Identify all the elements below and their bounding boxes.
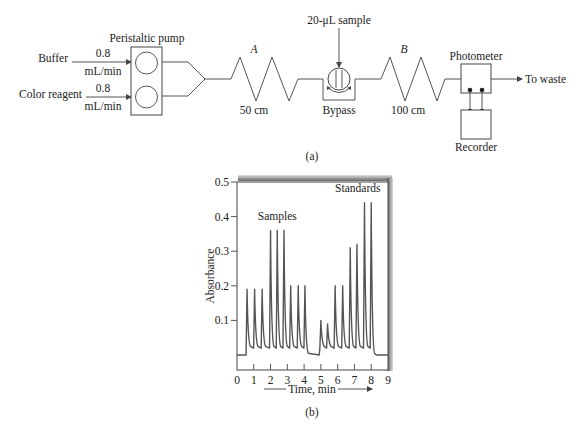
y-tick-label: 0.5 xyxy=(215,176,230,188)
mixing-tee xyxy=(162,62,205,96)
sample-label: 20-μL sample xyxy=(307,14,371,27)
x-tick-label: 7 xyxy=(352,374,358,386)
caption-a: (a) xyxy=(306,150,319,163)
samples-annotation: Samples xyxy=(258,210,297,223)
caption-b: (b) xyxy=(305,406,319,419)
buffer-flow-value: 0.8 xyxy=(96,47,111,59)
absorbance-chart: 0.10.20.30.40.5 0123456789 Samples Stand… xyxy=(204,175,393,419)
coil-b-length: 100 cm xyxy=(391,104,425,116)
buffer-label: Buffer xyxy=(38,52,68,64)
reagent-flow-unit: mL/min xyxy=(84,100,121,112)
to-waste-label: To waste xyxy=(525,73,566,85)
y-tick-label: 0.1 xyxy=(215,314,230,326)
color-reagent-label: Color reagent xyxy=(19,88,83,101)
recorder-label: Recorder xyxy=(455,141,497,153)
buffer-flow-unit: mL/min xyxy=(84,65,121,77)
coil-a xyxy=(205,57,323,101)
photometer-label: Photometer xyxy=(449,50,502,62)
coil-b xyxy=(355,57,461,101)
reagent-flow-value: 0.8 xyxy=(96,82,111,94)
terminal-dot xyxy=(480,88,485,93)
y-tick-label: 0.2 xyxy=(215,280,230,292)
x-tick-label: 1 xyxy=(251,374,257,386)
terminal-dot xyxy=(468,88,473,93)
coil-a-length: 50 cm xyxy=(240,104,268,116)
standards-annotation: Standards xyxy=(335,182,381,194)
coil-b-name: B xyxy=(400,43,407,55)
x-axis-label: Time, min xyxy=(288,383,336,396)
flow-diagram: Buffer 0.8 mL/min Color reagent 0.8 mL/m… xyxy=(19,14,566,163)
figure: Buffer 0.8 mL/min Color reagent 0.8 mL/m… xyxy=(0,0,583,429)
x-tick-label: 2 xyxy=(268,374,274,386)
bypass-label: Bypass xyxy=(322,104,356,117)
pump-label: Peristaltic pump xyxy=(109,32,184,45)
coil-a-name: A xyxy=(249,43,258,55)
recorder xyxy=(461,110,491,139)
y-axis-label: Absorbance xyxy=(204,249,216,304)
photometer xyxy=(461,64,491,93)
x-tick-label: 0 xyxy=(234,374,240,386)
injection-valve-icon xyxy=(328,68,350,90)
x-tick-label: 8 xyxy=(368,374,374,386)
y-tick-label: 0.3 xyxy=(215,245,230,257)
x-tick-label: 9 xyxy=(385,374,391,386)
y-tick-label: 0.4 xyxy=(215,211,230,223)
plot-shadow-top xyxy=(238,175,392,181)
peristaltic-pump xyxy=(131,47,162,115)
